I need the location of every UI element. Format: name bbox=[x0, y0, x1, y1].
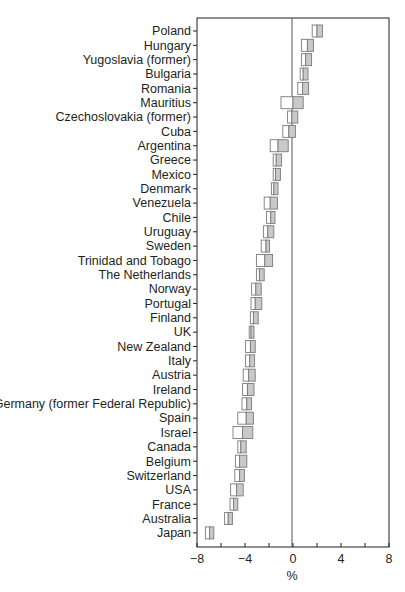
lower-interval-box bbox=[238, 412, 246, 424]
upper-interval-box bbox=[250, 355, 255, 367]
upper-interval-box bbox=[228, 513, 232, 525]
country-row: Sweden bbox=[146, 239, 270, 253]
x-tick-label: 8 bbox=[386, 552, 393, 566]
country-row: Ireland bbox=[153, 383, 254, 397]
country-row: Uruguay bbox=[144, 225, 274, 239]
lower-interval-box bbox=[270, 140, 278, 152]
upper-interval-box bbox=[292, 111, 298, 123]
country-row: Mexico bbox=[151, 168, 280, 182]
country-label: USA bbox=[165, 483, 191, 497]
country-label: Hungary bbox=[144, 39, 192, 53]
lower-interval-box bbox=[205, 527, 209, 539]
country-label: Japan bbox=[157, 526, 191, 540]
lower-interval-box bbox=[246, 355, 250, 367]
country-row: Australia bbox=[142, 512, 232, 526]
country-row: Hungary bbox=[144, 39, 314, 53]
country-label: Italy bbox=[168, 354, 192, 368]
country-row: The Netherlands bbox=[99, 268, 265, 282]
x-tick-label: 4 bbox=[338, 552, 345, 566]
country-label: Norway bbox=[149, 282, 192, 296]
lower-interval-box bbox=[301, 39, 307, 51]
country-row: Argentina bbox=[137, 139, 288, 153]
lower-interval-box bbox=[243, 384, 248, 396]
country-row: Norway bbox=[149, 282, 262, 296]
country-label: Cuba bbox=[161, 125, 191, 139]
country-row: Chile bbox=[163, 211, 276, 225]
lower-interval-box bbox=[312, 25, 317, 37]
lower-interval-box bbox=[233, 427, 243, 439]
country-label: Romania bbox=[141, 82, 191, 96]
upper-interval-box bbox=[303, 82, 309, 94]
lower-interval-box bbox=[267, 211, 271, 223]
lower-interval-box bbox=[256, 269, 259, 281]
upper-interval-box bbox=[210, 527, 214, 539]
interval-chart: PolandHungaryYugoslavia (former)Bulgaria… bbox=[0, 0, 405, 592]
lower-interval-box bbox=[288, 111, 292, 123]
country-row: Israel bbox=[160, 426, 252, 440]
country-label: Chile bbox=[163, 211, 192, 225]
lower-interval-box bbox=[273, 154, 276, 166]
country-row: Denmark bbox=[140, 182, 278, 196]
country-row: Poland bbox=[152, 24, 322, 38]
upper-interval-box bbox=[270, 197, 277, 209]
country-label: The Netherlands bbox=[99, 268, 191, 282]
lower-interval-box bbox=[246, 340, 251, 352]
country-row: Czechoslovakia (former) bbox=[56, 110, 298, 124]
country-label: Venezuela bbox=[133, 196, 191, 210]
upper-interval-box bbox=[266, 240, 270, 252]
country-label: Finland bbox=[150, 311, 191, 325]
country-row: New Zealand bbox=[117, 340, 255, 354]
country-label: Yugoslavia (former) bbox=[83, 53, 191, 67]
country-row: Spain bbox=[159, 411, 253, 425]
country-label: Ireland bbox=[153, 383, 191, 397]
upper-interval-box bbox=[246, 412, 253, 424]
country-row: Switzerland bbox=[126, 469, 244, 483]
upper-interval-box bbox=[307, 39, 313, 51]
country-row: Germany (former Federal Republic) bbox=[0, 397, 252, 411]
country-label: Bulgaria bbox=[145, 67, 191, 81]
upper-interval-box bbox=[234, 498, 238, 510]
upper-interval-box bbox=[240, 470, 245, 482]
x-tick-label: −8 bbox=[190, 552, 204, 566]
country-label: Germany (former Federal Republic) bbox=[0, 397, 191, 411]
country-row: Romania bbox=[141, 82, 309, 96]
country-row: Belgium bbox=[146, 455, 247, 469]
country-label: Belgium bbox=[146, 455, 191, 469]
lower-interval-box bbox=[252, 283, 256, 295]
upper-interval-box bbox=[256, 283, 261, 295]
upper-interval-box bbox=[247, 398, 252, 410]
upper-interval-box bbox=[274, 183, 278, 195]
lower-interval-box bbox=[243, 369, 248, 381]
country-row: Portugal bbox=[144, 297, 261, 311]
country-label: UK bbox=[174, 325, 192, 339]
country-row: Italy bbox=[168, 354, 255, 368]
country-label: Israel bbox=[160, 426, 191, 440]
country-row: Japan bbox=[157, 526, 214, 540]
country-row: Cuba bbox=[161, 125, 295, 139]
country-row: Austria bbox=[152, 368, 255, 382]
upper-interval-box bbox=[293, 97, 303, 109]
upper-interval-box bbox=[237, 484, 244, 496]
country-row: Finland bbox=[150, 311, 258, 325]
lower-interval-box bbox=[230, 498, 234, 510]
country-label: Mauritius bbox=[140, 96, 191, 110]
country-label: Mexico bbox=[151, 168, 191, 182]
country-label: Sweden bbox=[146, 239, 191, 253]
lower-interval-box bbox=[235, 470, 240, 482]
x-tick-label: 0 bbox=[290, 552, 297, 566]
upper-interval-box bbox=[250, 340, 255, 352]
country-label: Australia bbox=[142, 512, 191, 526]
country-rows: PolandHungaryYugoslavia (former)Bulgaria… bbox=[0, 24, 322, 540]
upper-interval-box bbox=[303, 68, 308, 80]
lower-interval-box bbox=[251, 297, 255, 309]
country-label: Canada bbox=[147, 440, 191, 454]
country-row: Mauritius bbox=[140, 96, 303, 110]
country-label: Poland bbox=[152, 24, 191, 38]
lower-interval-box bbox=[231, 484, 237, 496]
country-label: Austria bbox=[152, 368, 191, 382]
upper-interval-box bbox=[317, 25, 322, 37]
upper-interval-box bbox=[276, 168, 281, 180]
lower-interval-box bbox=[264, 226, 268, 238]
country-label: Trinidad and Tobago bbox=[78, 254, 191, 268]
country-label: Argentina bbox=[137, 139, 191, 153]
